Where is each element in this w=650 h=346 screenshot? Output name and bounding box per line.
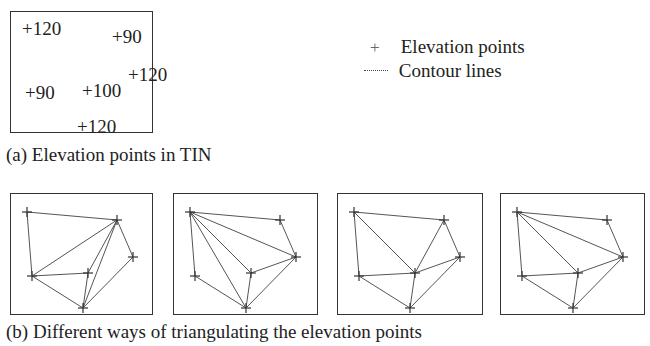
triangulation-1 — [22, 207, 138, 313]
triangulation-drawing — [0, 0, 650, 346]
triangulation-2 — [185, 207, 301, 313]
caption-b: (b) Different ways of triangulating the … — [6, 322, 422, 341]
triangulation-3 — [349, 207, 465, 313]
triangulation-4 — [512, 207, 628, 313]
